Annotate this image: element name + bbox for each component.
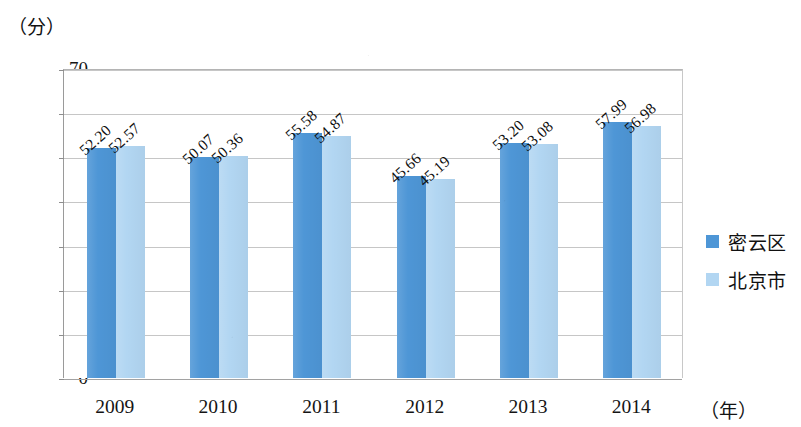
legend-swatch-icon [706,273,719,286]
y-axis-tick-mark [59,158,64,159]
y-axis-tick-mark [59,70,64,71]
gridline [64,158,682,159]
bar [632,126,661,378]
y-axis-tick-mark [59,114,64,115]
gridline [64,114,682,115]
y-axis-tick-mark [59,335,64,336]
gridline [64,70,682,71]
legend-item: 密云区 [706,222,798,260]
plot-area: 52.2052.5750.0750.3655.5854.8745.6645.19… [63,69,683,378]
bar [426,179,455,378]
bar [219,156,248,378]
x-axis-tick-label: 2014 [579,396,683,418]
legend-label: 北京市 [728,266,787,293]
legend-item: 北京市 [706,260,798,298]
x-axis-tick-label: 2011 [269,396,373,418]
gridline [64,379,682,380]
gridline [64,247,682,248]
gridline [64,202,682,203]
bar [190,157,219,378]
bar [529,144,558,378]
bar [293,133,322,378]
legend-swatch-icon [706,235,719,248]
y-axis-unit-label: （分） [8,12,65,39]
bar [116,146,145,378]
bar [87,148,116,378]
gridline [64,291,682,292]
y-axis-tick-mark [59,247,64,248]
bar [500,143,529,378]
bar [322,136,351,378]
chart-legend: 密云区北京市 [706,222,798,298]
x-axis-tick-label: 2013 [476,396,580,418]
bar [397,176,426,378]
bar [603,122,632,378]
x-axis-unit-label: （年） [700,396,757,423]
y-axis-tick-mark [59,291,64,292]
legend-label: 密云区 [728,228,787,255]
x-axis-tick-label: 2009 [63,396,167,418]
y-axis-tick-mark [59,379,64,380]
x-axis-tick-label: 2012 [373,396,477,418]
x-axis-tick-label: 2010 [166,396,270,418]
y-axis-tick-mark [59,202,64,203]
gridline [64,335,682,336]
